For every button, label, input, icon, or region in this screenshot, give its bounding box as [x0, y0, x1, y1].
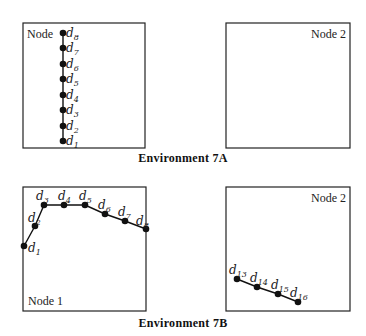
waypoint-label-d5: d5 — [79, 189, 92, 205]
node-label: Node 1 — [28, 294, 63, 308]
waypoint-label-d2: d2 — [66, 119, 79, 135]
node-label: Node 2 — [311, 27, 346, 41]
panel-7a-node-2 — [226, 23, 350, 148]
waypoint-label-d6: d6 — [98, 198, 111, 214]
trajectory-7a: d1d2d3d4d5d6d7d8 — [60, 26, 80, 150]
waypoint-label-d4: d4 — [66, 88, 79, 104]
waypoint-label-d6: d6 — [66, 57, 79, 73]
trajectory-7b-node-2: d13d14d15d16 — [229, 263, 308, 305]
waypoint-label-d14: d14 — [250, 271, 268, 287]
environment-7a: Node d1d2d3d4d5d6d7d8 Node 2 Environment… — [23, 23, 350, 165]
waypoint-label-d15: d15 — [271, 278, 289, 294]
environment-diagram: Node d1d2d3d4d5d6d7d8 Node 2 Environment… — [0, 0, 366, 336]
waypoint-label-d3: d3 — [36, 189, 49, 205]
waypoint-label-d4: d4 — [58, 189, 71, 205]
waypoint-label-d2: d2 — [28, 211, 41, 227]
waypoint-label-d13: d13 — [229, 263, 247, 279]
waypoint-label-d7: d7 — [66, 41, 80, 57]
caption-7a: Environment 7A — [138, 151, 228, 165]
caption-7b: Environment 7B — [139, 316, 228, 330]
trajectory-7b-node-1: d1d2d3d4d5d6d7d8 — [21, 189, 150, 257]
waypoint-label-d16: d16 — [290, 286, 308, 302]
waypoint-label-d1: d1 — [66, 134, 79, 150]
waypoint-label-d1: d1 — [28, 241, 41, 257]
environment-7b: Node 1 d1d2d3d4d5d6d7d8 Node 2 d13d14d15… — [21, 187, 350, 330]
waypoint-d1 — [21, 243, 28, 250]
waypoint-label-d8: d8 — [136, 214, 149, 230]
waypoint-label-d3: d3 — [66, 103, 79, 119]
node-label: Node — [27, 27, 53, 41]
panel-7a-node — [23, 23, 145, 148]
waypoint-label-d7: d7 — [118, 205, 132, 221]
waypoint-label-d8: d8 — [66, 26, 79, 42]
node-label: Node 2 — [311, 191, 346, 205]
waypoint-label-d5: d5 — [66, 72, 79, 88]
